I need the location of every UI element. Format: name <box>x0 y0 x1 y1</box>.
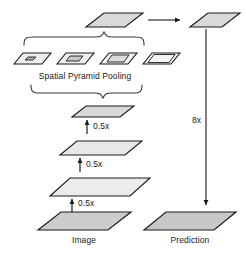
label-prediction: Prediction <box>171 236 210 245</box>
pyramid-tile-3 <box>100 53 137 64</box>
node-feature-map-quarter <box>60 141 142 155</box>
label-upsample-8x: 8x <box>192 116 201 125</box>
label-scale-quarter: 0.5x <box>86 160 102 169</box>
brace-up-pooling-to-fused <box>24 32 144 45</box>
node-prediction <box>144 212 236 230</box>
node-fused-feature-map <box>86 13 143 27</box>
diagram-vector-layer <box>0 0 246 256</box>
pyramid-tile-4 <box>143 53 180 64</box>
node-feature-map-eighth <box>72 106 134 117</box>
node-image <box>38 212 131 230</box>
label-image: Image <box>72 236 96 245</box>
label-scale-half: 0.5x <box>78 199 94 208</box>
brace-down-feature-to-pooling <box>31 85 142 98</box>
label-scale-eighth: 0.5x <box>93 122 109 131</box>
node-output-feature-map <box>190 13 240 27</box>
node-feature-map-half <box>50 178 150 196</box>
label-spatial-pyramid-pooling: Spatial Pyramid Pooling <box>39 72 132 81</box>
diagram-canvas: Spatial Pyramid Pooling 0.5x 0.5x 0.5x 8… <box>0 0 246 256</box>
pyramid-tile-1 <box>14 53 51 64</box>
pyramid-tile-2 <box>57 53 94 64</box>
